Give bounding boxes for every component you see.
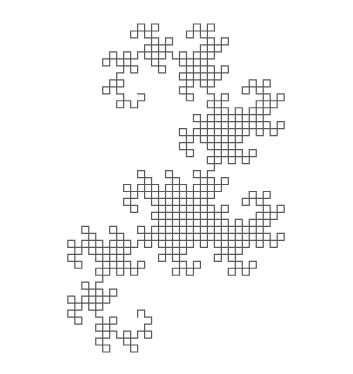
fractal-canvas: [0, 0, 353, 374]
background: [0, 0, 353, 374]
